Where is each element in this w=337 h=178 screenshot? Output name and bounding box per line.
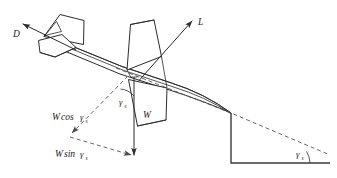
svg-text:cos: cos	[61, 112, 74, 122]
svg-text:W: W	[55, 149, 64, 159]
flight-path-angle-at-ground-label: γ s	[296, 149, 304, 161]
ground-reference-triangle	[231, 113, 330, 163]
svg-text:γ: γ	[80, 149, 84, 159]
vertical-and-horizontal-reference	[231, 113, 330, 163]
svg-text:W: W	[52, 112, 61, 122]
svg-text:s: s	[125, 103, 127, 109]
weight-sine-component-label: W sin γ s	[55, 149, 88, 161]
svg-text:γ: γ	[119, 97, 123, 107]
aircraft-body	[39, 15, 232, 127]
svg-text:s: s	[86, 118, 88, 124]
svg-text:s: s	[302, 155, 304, 161]
drag-force-label: D	[12, 29, 20, 39]
svg-text:sin: sin	[64, 149, 75, 159]
glide-force-diagram: D L W W cos γ s W sin γ s γ s γ s	[0, 0, 337, 178]
svg-text:s: s	[86, 155, 88, 161]
svg-text:γ: γ	[80, 112, 84, 122]
lift-force-label: L	[197, 17, 203, 27]
ground-angle-arc	[307, 152, 311, 164]
flight-path-angle-at-aircraft-label: γ s	[119, 97, 127, 109]
weight-force-label: W	[143, 110, 152, 120]
upper-wing-panel	[127, 20, 162, 70]
svg-text:γ: γ	[296, 149, 300, 159]
